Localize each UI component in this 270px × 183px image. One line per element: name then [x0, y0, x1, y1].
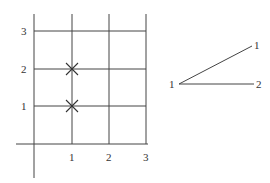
- right-end-label: 2: [256, 78, 262, 90]
- upper-ray: [179, 46, 252, 84]
- vertex-label: 1: [169, 78, 175, 90]
- angle-diagram: 1 1 2: [169, 39, 262, 90]
- figure: 1 2 3 1 2 3 1 1 2: [0, 0, 270, 183]
- x-tick-label: 3: [143, 151, 149, 163]
- upper-end-label: 1: [254, 39, 260, 51]
- y-tick-label: 3: [21, 25, 27, 37]
- grid-plot: 1 2 3 1 2 3: [16, 14, 149, 178]
- y-tick-label: 1: [21, 100, 27, 112]
- x-tick-label: 1: [69, 151, 75, 163]
- x-tick-label: 2: [106, 151, 112, 163]
- y-tick-label: 2: [21, 63, 27, 75]
